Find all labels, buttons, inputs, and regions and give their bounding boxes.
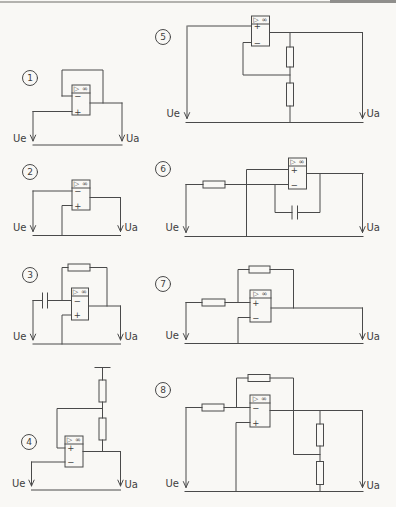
wires (185, 378, 363, 492)
resistor (317, 462, 324, 485)
schematic-worksheet-page: 1 ▷ ∞ − + Ue Ua 2 ▷ ∞ − + Ue Ua (0, 0, 396, 507)
circuit-number: 8 (156, 383, 171, 398)
resistor (202, 404, 224, 411)
output-arrow (360, 411, 365, 488)
opamp-pin-bottom: + (252, 418, 259, 428)
input-voltage-label: Ue (166, 478, 179, 489)
opamp-pin-top: − (252, 403, 259, 413)
resistor (317, 424, 324, 446)
circuit-8-diagram: 8 ▷ ∞ − + Ue Ua (0, 0, 396, 507)
output-voltage-label: Ua (367, 480, 380, 491)
number-text: 8 (160, 385, 166, 395)
resistor (248, 375, 270, 382)
input-arrow (183, 408, 188, 488)
opamp-symbol: ▷ ∞ − + (250, 395, 270, 428)
